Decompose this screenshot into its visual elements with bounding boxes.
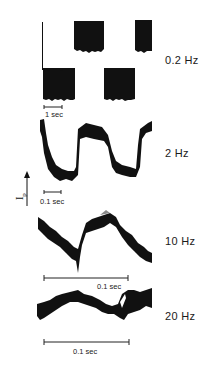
panel-10hz: 0.1 sec 10 Hz <box>0 205 210 290</box>
frequency-label: 20 Hz <box>165 310 195 322</box>
trace-20hz <box>0 288 210 372</box>
scale-bar-0-1sec <box>44 275 128 281</box>
panel-0-2hz: 1 sec 0.2 Hz <box>0 0 210 120</box>
panel-20hz: 0.1 sec 20 Hz <box>0 288 210 372</box>
frequency-label: 10 Hz <box>165 235 195 247</box>
scale-bar-label: 0.1 sec <box>73 347 97 356</box>
scale-bar-1sec <box>44 105 62 109</box>
trace-10hz <box>0 205 210 290</box>
scale-bar-0-1sec <box>44 339 129 345</box>
frequency-label: 0.2 Hz <box>165 54 199 66</box>
frequency-label: 2 Hz <box>165 147 189 159</box>
